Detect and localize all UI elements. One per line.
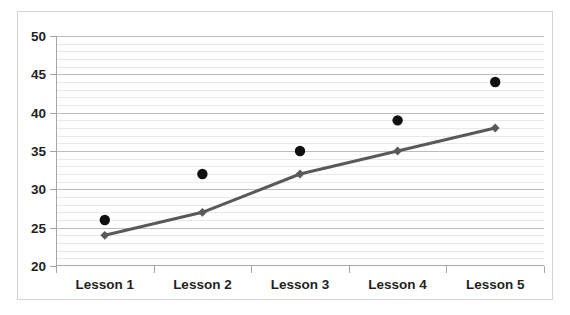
y-axis-label: 45 [31, 67, 46, 82]
scatter-series-marker-circle [490, 77, 500, 87]
x-tick-mark [56, 266, 57, 273]
scatter-series-marker-circle [392, 115, 402, 125]
x-tick-mark [349, 266, 350, 273]
x-tick-mark [154, 266, 155, 273]
x-tick-mark [251, 266, 252, 273]
y-axis-label: 30 [31, 182, 46, 197]
line-series-marker-diamond [296, 170, 305, 179]
y-axis-label: 35 [31, 144, 46, 159]
plot-area: 20253035404550 Lesson 1Lesson 2Lesson 3L… [56, 36, 544, 266]
line-series-marker-diamond [491, 124, 500, 133]
scatter-series-marker-circle [100, 215, 110, 225]
line-series-marker-diamond [393, 147, 402, 156]
scatter-series-marker-circle [197, 169, 207, 179]
x-axis-label-3: Lesson 3 [271, 277, 330, 292]
x-tick-mark [446, 266, 447, 273]
y-axis-label: 50 [31, 29, 46, 44]
x-axis-label-5: Lesson 5 [466, 277, 525, 292]
chart-frame: 20253035404550 Lesson 1Lesson 2Lesson 3L… [17, 11, 553, 300]
line-series-marker-diamond [100, 231, 109, 240]
x-axis-label-1: Lesson 1 [76, 277, 135, 292]
y-axis-label: 25 [31, 220, 46, 235]
scatter-series-marker-circle [295, 146, 305, 156]
y-axis-label: 20 [31, 259, 46, 274]
line-series-marker-diamond [198, 208, 207, 217]
line-series-path [105, 128, 495, 235]
x-tick-mark [544, 266, 545, 273]
x-axis-label-2: Lesson 2 [173, 277, 232, 292]
x-axis-label-4: Lesson 4 [368, 277, 427, 292]
y-axis-label: 40 [31, 105, 46, 120]
data-series-layer [56, 36, 544, 266]
